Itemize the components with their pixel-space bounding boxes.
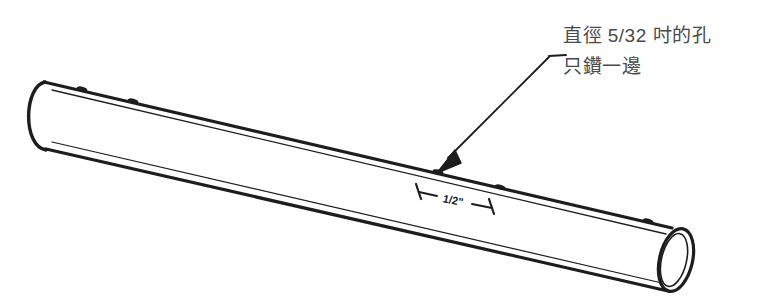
leader-arrowhead [437, 150, 461, 173]
pipe-left-cap-arc [29, 82, 46, 150]
callout-note-line-2: 只鑽一邊 [563, 51, 641, 82]
dimension-line-right [472, 204, 492, 208]
diagram-canvas: 直徑 5/32 吋的孔 只鑽一邊 1/2" [0, 0, 760, 305]
dimension-tick-right [489, 199, 494, 214]
pipe-bottom-edge [46, 149, 668, 291]
pipe-inner-wall-line-lower [52, 142, 662, 283]
pipe-body [29, 82, 700, 295]
callout-note-line-1: 直徑 5/32 吋的孔 [563, 20, 711, 51]
dimension-line [419, 192, 437, 196]
leader-diagonal-line [448, 57, 549, 158]
callout-leader [437, 55, 566, 173]
pipe-top-edge [44, 82, 672, 228]
